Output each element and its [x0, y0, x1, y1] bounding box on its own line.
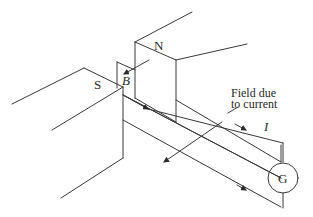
field-due-label-line2: to current: [231, 97, 278, 111]
south-magnet: [12, 68, 123, 198]
circuit-wires: [123, 95, 281, 207]
galvanometer-label: G: [278, 171, 287, 186]
current-arrow-top: [235, 124, 246, 130]
current-label: I: [263, 119, 269, 134]
induction-diagram: N S B Field due to current I G: [0, 0, 313, 217]
b-field-label: B: [122, 73, 130, 88]
south-pole-label: S: [94, 77, 101, 92]
north-pole-label: N: [154, 38, 164, 53]
